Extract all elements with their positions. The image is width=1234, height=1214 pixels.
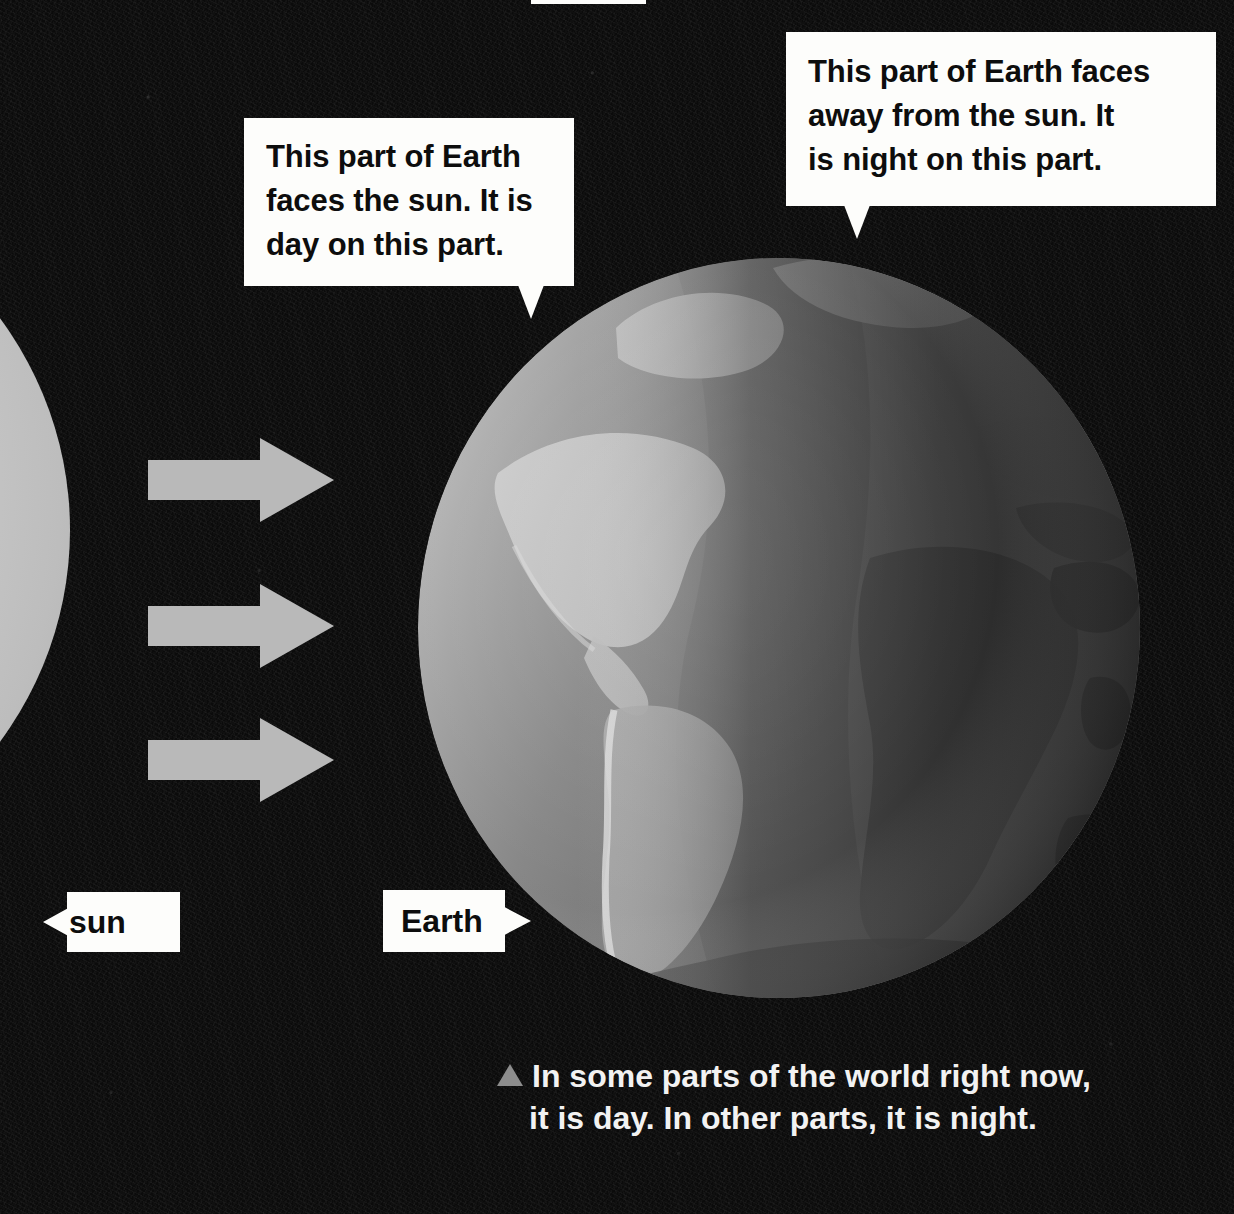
arrow-right-icon bbox=[148, 438, 334, 522]
callout-night-line-2: away from the sun. It bbox=[808, 94, 1198, 138]
label-tag-sun-text: sun bbox=[65, 904, 126, 941]
arrow-right-icon bbox=[148, 584, 334, 668]
diagram-page: This part of Earth faces the sun. It is … bbox=[0, 0, 1234, 1214]
triangle-up-icon bbox=[497, 1064, 523, 1086]
callout-night-tail bbox=[844, 205, 870, 239]
callout-night-side: This part of Earth faces away from the s… bbox=[786, 32, 1216, 206]
earth-globe bbox=[418, 258, 1140, 998]
callout-day-line-1: This part of Earth bbox=[266, 135, 554, 179]
callout-day-line-2: faces the sun. It is bbox=[266, 179, 554, 223]
caption-line-2: it is day. In other parts, it is night. bbox=[497, 1097, 1197, 1139]
callout-day-line-3: day on this part. bbox=[266, 223, 554, 267]
figure-caption: In some parts of the world right now, it… bbox=[497, 1055, 1197, 1139]
caption-line-1: In some parts of the world right now, bbox=[497, 1055, 1197, 1097]
callout-night-line-1: This part of Earth faces bbox=[808, 50, 1198, 94]
callout-day-tail bbox=[518, 285, 544, 319]
label-tag-earth-text: Earth bbox=[401, 903, 483, 940]
arrow-right-icon bbox=[148, 718, 334, 802]
callout-night-line-3: is night on this part. bbox=[808, 138, 1198, 182]
cropped-label-sliver bbox=[531, 0, 646, 4]
callout-day-side: This part of Earth faces the sun. It is … bbox=[244, 118, 574, 286]
caption-line-1-text: In some parts of the world right now, bbox=[532, 1058, 1091, 1094]
